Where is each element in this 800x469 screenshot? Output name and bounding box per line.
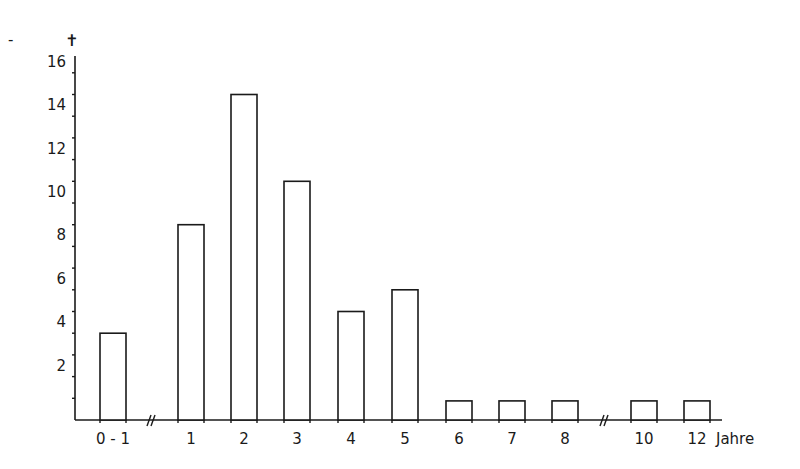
bar-4 <box>338 312 364 421</box>
bar-0-1 <box>100 333 126 420</box>
x-tick-label: 4 <box>346 430 356 448</box>
x-tick-labels: 0 - 1123456781012 <box>96 420 710 448</box>
y-tick-label: 4 <box>56 313 66 331</box>
x-tick-label: 12 <box>687 430 706 448</box>
bar-7 <box>499 401 525 420</box>
bar-3 <box>284 181 310 420</box>
x-axis-label: Jahre <box>715 430 754 448</box>
bar-2 <box>231 95 257 421</box>
bar-12 <box>684 401 710 420</box>
bar-5 <box>392 290 418 420</box>
x-tick-label: 1 <box>186 430 196 448</box>
y-tick-label: 6 <box>56 270 66 288</box>
bar-6 <box>446 401 472 420</box>
x-tick-label: 0 - 1 <box>96 430 130 448</box>
y-axis-symbol: ✝ <box>65 31 78 50</box>
x-tick-label: 10 <box>634 430 653 448</box>
x-tick-label: 2 <box>239 430 249 448</box>
bars <box>100 95 710 421</box>
x-tick-label: 7 <box>507 430 517 448</box>
y-tick-label: 12 <box>47 140 66 158</box>
y-tick-label: 14 <box>47 96 66 114</box>
y-tick-label: 10 <box>47 183 66 201</box>
x-tick-label: 8 <box>560 430 570 448</box>
y-tick-label: 16 <box>47 53 66 71</box>
y-ticks: 246810121416 <box>47 53 75 399</box>
x-tick-label: 3 <box>292 430 302 448</box>
bar-10 <box>631 401 657 420</box>
bar-8 <box>552 401 578 420</box>
bar-1 <box>178 225 204 420</box>
stray-mark: - <box>8 31 13 49</box>
x-tick-label: 5 <box>400 430 410 448</box>
y-tick-label: 2 <box>56 357 66 375</box>
x-tick-label: 6 <box>454 430 464 448</box>
y-tick-label: 8 <box>56 226 66 244</box>
bar-chart: - ✝ 246810121416 0 - 1123456781012 Jahre <box>0 0 800 469</box>
